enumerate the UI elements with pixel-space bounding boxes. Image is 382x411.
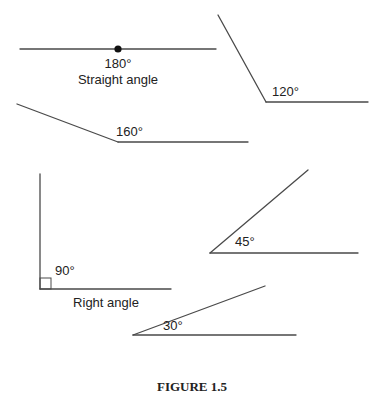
- straight-angle-name-label: Straight angle: [78, 72, 158, 87]
- right-angle-name-label: Right angle: [73, 295, 139, 310]
- angle-160: 160°: [17, 104, 248, 142]
- angle-120-slanted-ray: [218, 15, 266, 102]
- angles-figure: 180° Straight angle 120° 160° 90° Right …: [0, 0, 382, 411]
- straight-angle: 180° Straight angle: [20, 45, 216, 87]
- angle-120-label: 120°: [272, 84, 299, 99]
- angle-30: 30°: [133, 286, 296, 335]
- angle-30-label: 30°: [163, 318, 183, 333]
- angle-120: 120°: [218, 15, 368, 102]
- angle-160-label: 160°: [116, 124, 143, 139]
- straight-angle-vertex-dot: [114, 45, 121, 52]
- figure-caption: FIGURE 1.5: [157, 379, 228, 394]
- angle-45-label: 45°: [235, 234, 255, 249]
- angle-30-slanted-ray: [133, 286, 265, 335]
- right-angle-square-marker: [40, 278, 51, 289]
- angle-160-slanted-ray: [17, 104, 118, 142]
- angle-45-slanted-ray: [210, 170, 308, 253]
- angle-45: 45°: [210, 170, 358, 253]
- straight-angle-degree-label: 180°: [105, 56, 132, 71]
- right-angle-degree-label: 90°: [55, 263, 75, 278]
- right-angle: 90° Right angle: [40, 174, 171, 310]
